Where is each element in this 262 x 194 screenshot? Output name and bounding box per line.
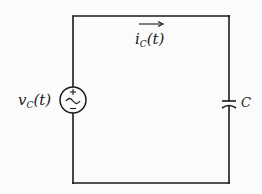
circuit-diagram: iC(t) vC(t) C <box>0 0 262 194</box>
ac-source-icon <box>60 87 86 113</box>
current-label-sub: C <box>140 39 147 49</box>
capacitor-label: C <box>241 95 251 110</box>
current-label: iC(t) <box>135 29 164 48</box>
current-arrow-icon <box>139 22 163 27</box>
source-label-sub: C <box>26 100 33 110</box>
current-label-tail: (t) <box>147 30 165 48</box>
source-label-tail: (t) <box>33 91 51 109</box>
source-voltage-label: vC(t) <box>18 90 51 109</box>
